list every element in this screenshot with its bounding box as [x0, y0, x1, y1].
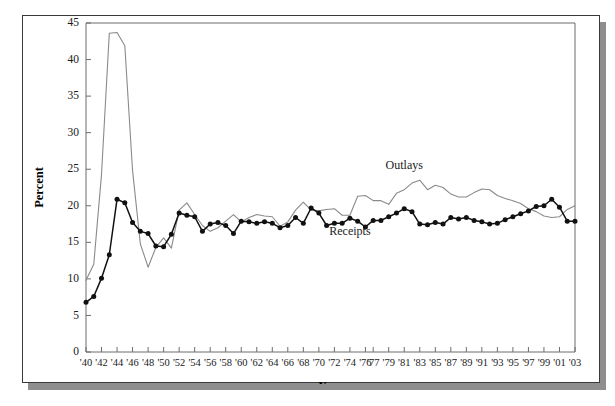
x-tick-label: '62: [251, 357, 263, 368]
data-point-marker: [410, 209, 415, 214]
x-tick-label: '74: [344, 357, 357, 368]
data-point-marker: [169, 232, 174, 237]
chart-frame: 051015202530354045 '40'42'44'46'48'50'52…: [22, 15, 600, 383]
x-tick-label: '85: [429, 357, 441, 368]
x-tick-label: '56: [204, 357, 216, 368]
x-tick-label: '48: [142, 357, 154, 368]
data-point-marker: [107, 252, 112, 257]
y-tick-label: 5: [73, 309, 79, 321]
data-point-marker: [565, 219, 570, 224]
y-tick-label: 35: [68, 89, 80, 101]
data-point-marker: [184, 213, 189, 218]
x-tick-label: '77: [367, 357, 379, 368]
data-point-marker: [208, 222, 213, 227]
x-tick-label: '66: [282, 357, 294, 368]
x-tick-label: '79: [383, 357, 395, 368]
data-point-marker: [518, 211, 523, 216]
data-point-marker: [394, 211, 399, 216]
data-point-marker: [262, 219, 267, 224]
x-tick-label: '03: [569, 357, 581, 368]
data-point-marker: [371, 218, 376, 223]
data-point-marker: [309, 205, 314, 210]
x-tick-label: '93: [491, 357, 503, 368]
x-tick-label: '68: [297, 357, 309, 368]
data-point-marker: [247, 219, 252, 224]
data-point-marker: [301, 221, 306, 226]
data-point-marker: [177, 211, 182, 216]
data-point-marker: [270, 221, 275, 226]
x-tick-label: '50: [157, 357, 169, 368]
x-tick-label: '44: [111, 357, 124, 368]
x-tick-label: '60: [235, 357, 247, 368]
data-point-marker: [316, 211, 321, 216]
x-tick-label: '91: [476, 357, 488, 368]
x-tick-label: '58: [220, 357, 232, 368]
data-point-marker: [386, 214, 391, 219]
data-point-marker: [541, 203, 546, 208]
y-tick-label: 10: [68, 272, 80, 284]
y-tick-label: 40: [68, 53, 80, 65]
x-tick-label: '70: [313, 357, 325, 368]
data-point-marker: [347, 216, 352, 221]
x-tick-label: '97: [522, 357, 534, 368]
data-point-marker: [278, 225, 283, 230]
series-layer: [84, 33, 578, 305]
x-tick-label: '99: [538, 357, 550, 368]
x-tick-label: '40: [80, 357, 92, 368]
data-point-marker: [223, 223, 228, 228]
data-point-marker: [231, 231, 236, 236]
x-tick-label: '42: [95, 357, 107, 368]
data-point-marker: [534, 204, 539, 209]
figure-root: 051015202530354045 '40'42'44'46'48'50'52…: [0, 0, 615, 406]
data-point-marker: [84, 300, 89, 305]
data-point-marker: [472, 218, 477, 223]
data-point-marker: [355, 219, 360, 224]
data-point-marker: [285, 223, 290, 228]
data-point-marker: [433, 220, 438, 225]
x-tick-label: '52: [173, 357, 185, 368]
data-point-marker: [448, 215, 453, 220]
x-tick-label: '54: [188, 357, 201, 368]
x-tick-label: '01: [553, 357, 565, 368]
y-tick-label: 20: [68, 199, 80, 211]
data-point-marker: [510, 214, 515, 219]
data-point-marker: [495, 221, 500, 226]
y-tick-label: 0: [73, 345, 79, 357]
x-axis-ticks: '40'42'44'46'48'50'52'54'56'58'60'62'64'…: [80, 347, 581, 368]
data-point-marker: [254, 221, 259, 226]
data-point-marker: [417, 222, 422, 227]
data-point-marker: [122, 200, 127, 205]
series-label-outlays: Outlays: [386, 158, 424, 172]
data-point-marker: [161, 244, 166, 249]
x-tick-label: '81: [398, 357, 410, 368]
data-point-marker: [215, 220, 220, 225]
x-tick-label: '95: [507, 357, 519, 368]
data-point-marker: [378, 218, 383, 223]
data-point-marker: [456, 216, 461, 221]
data-point-marker: [464, 215, 469, 220]
data-point-marker: [192, 214, 197, 219]
x-tick-label: '64: [266, 357, 279, 368]
data-point-marker: [115, 197, 120, 202]
data-point-marker: [479, 219, 484, 224]
y-axis-title: Percent: [32, 166, 46, 208]
data-point-marker: [503, 217, 508, 222]
data-point-marker: [91, 294, 96, 299]
chart-area: 051015202530354045 '40'42'44'46'48'50'52…: [23, 16, 601, 384]
data-point-marker: [130, 220, 135, 225]
data-point-marker: [573, 219, 578, 224]
data-point-marker: [99, 276, 104, 281]
x-tick-label: '46: [126, 357, 138, 368]
data-point-marker: [293, 215, 298, 220]
x-axis-title: Year: [318, 379, 343, 384]
data-point-marker: [557, 205, 562, 210]
receipts-outlays-line-chart: 051015202530354045 '40'42'44'46'48'50'52…: [23, 16, 601, 384]
series-annotations: OutlaysReceipts: [329, 158, 423, 238]
y-tick-label: 45: [68, 16, 80, 28]
data-point-marker: [425, 222, 430, 227]
x-tick-label: '83: [414, 357, 426, 368]
data-point-marker: [441, 222, 446, 227]
x-tick-label: '89: [460, 357, 472, 368]
series-line-outlays: [86, 33, 575, 281]
y-axis-ticks: 051015202530354045: [68, 16, 92, 357]
